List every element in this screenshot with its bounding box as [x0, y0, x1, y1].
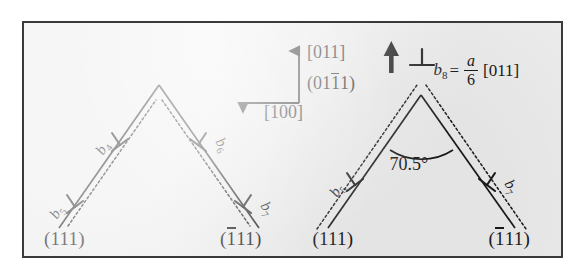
- equation-numerator: a: [464, 53, 478, 70]
- dislocation-symbol-b8: [410, 49, 434, 65]
- slip-plane-n111-right-line-right-panel: [421, 95, 515, 228]
- figure-frame: b4 b5 b6 b7 (111) (111) [011] (0111) [10…: [22, 21, 563, 258]
- plane-label-111-left: (111): [44, 229, 85, 248]
- plane-label-111-right-panel: (111): [313, 229, 354, 248]
- partial-trace-left-dotted: [68, 100, 156, 226]
- equation-denominator: 6: [464, 70, 478, 88]
- equation-fraction: a 6: [464, 53, 478, 88]
- angle-label: 70.5°: [390, 155, 429, 173]
- partial-trace-right-dotted-right-panel: [426, 85, 526, 229]
- figure-root: b4 b5 b6 b7 (111) (111) [011] (0111) [10…: [0, 0, 585, 278]
- burgers-vector-equation: b8 = a 6 [011]: [434, 53, 520, 88]
- bold-up-arrow-icon: [383, 41, 398, 73]
- plane-label-n111-right-panel: (111): [489, 229, 530, 248]
- equation-direction: [011]: [483, 61, 519, 81]
- panel-right-geometry: [293, 23, 563, 256]
- plane-label-n111-left: (111): [220, 229, 261, 248]
- equation-equals: =: [450, 61, 460, 81]
- equation-symbol-b8: b8: [434, 60, 448, 81]
- panel-right: b5 b7 70.5° b8 = a 6 [011] (111) (111): [293, 23, 562, 256]
- partial-trace-right-dotted: [162, 100, 250, 226]
